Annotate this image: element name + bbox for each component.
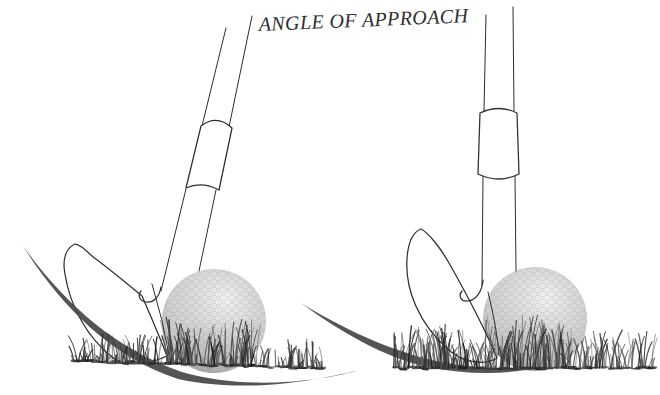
figure-caption: ANGLE OF APPROACH	[256, 4, 470, 35]
angle-of-approach-figure: ANGLE OF APPROACH	[0, 0, 660, 395]
panel-vertical-approach	[301, 7, 657, 373]
panel-steep-approach	[23, 16, 356, 386]
club-shaft	[478, 7, 519, 285]
shaft-ferrule	[186, 120, 232, 190]
figure-canvas: ANGLE OF APPROACH	[0, 0, 660, 395]
club-shaft	[161, 16, 252, 291]
shaft-ferrule	[478, 109, 519, 180]
